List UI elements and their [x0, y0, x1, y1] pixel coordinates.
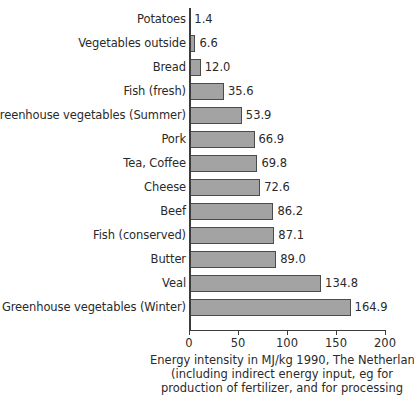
bar-wrapper: 1.4 — [189, 11, 250, 29]
bar-row: Pork66.9 — [0, 128, 414, 152]
bar-value-label: 69.8 — [257, 155, 287, 173]
bar-value-label: 66.9 — [255, 131, 285, 149]
bar-wrapper: 66.9 — [189, 131, 315, 149]
bar-row: Tea, Coffee69.8 — [0, 152, 414, 176]
bar-category-label: Vegetables outside — [78, 32, 186, 56]
bar-wrapper: 72.6 — [189, 179, 320, 197]
bar — [189, 275, 321, 292]
bar-wrapper: 87.1 — [189, 227, 334, 245]
x-tick-label: 50 — [231, 336, 246, 350]
bar-row: Bread12.0 — [0, 56, 414, 80]
bar-wrapper: 69.8 — [189, 155, 317, 173]
y-axis-line — [189, 8, 191, 330]
bar-row: Veal134.8 — [0, 272, 414, 296]
x-tick-label: 100 — [276, 336, 298, 350]
bar-wrapper: 12.0 — [189, 59, 261, 77]
bar-wrapper: 89.0 — [189, 251, 336, 269]
bar-category-label: Beef — [160, 200, 186, 224]
bar-row: Potatoes1.4 — [0, 8, 414, 32]
bar-category-label: Cheese — [144, 176, 186, 200]
bar-value-label: 134.8 — [321, 275, 358, 293]
bar-category-label: Greenhouse vegetables (Summer) — [0, 104, 186, 128]
bar-wrapper: 134.8 — [189, 275, 381, 293]
bar — [189, 179, 260, 196]
bar-category-label: Bread — [153, 56, 186, 80]
bar-wrapper: 6.6 — [189, 35, 255, 53]
x-tick — [287, 330, 288, 335]
bar-value-label: 12.0 — [201, 59, 231, 77]
plot-area: Potatoes1.4Vegetables outside6.6Bread12.… — [0, 0, 414, 340]
bar-category-label: Tea, Coffee — [123, 152, 186, 176]
bar-value-label: 35.6 — [224, 83, 254, 101]
x-tick — [385, 330, 386, 335]
bar — [189, 251, 276, 268]
bar — [189, 83, 224, 100]
bar-value-label: 6.6 — [195, 35, 217, 53]
bar-category-label: Butter — [151, 248, 186, 272]
x-tick-label: 200 — [374, 336, 396, 350]
bar-category-label: Greenhouse vegetables (Winter) — [2, 296, 186, 320]
caption-line-2: (including indirect energy input, eg for — [150, 367, 414, 381]
bar-value-label: 53.9 — [242, 107, 272, 125]
bar-row: Butter89.0 — [0, 248, 414, 272]
bar — [189, 203, 273, 220]
bar-rows: Potatoes1.4Vegetables outside6.6Bread12.… — [0, 8, 414, 320]
bar-value-label: 87.1 — [274, 227, 304, 245]
bar-value-label: 86.2 — [273, 203, 303, 221]
bar — [189, 131, 255, 148]
bar-category-label: Pork — [161, 128, 186, 152]
bar-row: Fish (conserved)87.1 — [0, 224, 414, 248]
bar — [189, 107, 242, 124]
bar — [189, 227, 274, 244]
bar-row: Vegetables outside6.6 — [0, 32, 414, 56]
bar-value-label: 89.0 — [276, 251, 306, 269]
x-tick — [238, 330, 239, 335]
bar-wrapper: 164.9 — [189, 299, 411, 317]
chart-caption: Energy intensity in MJ/kg 1990, The Neth… — [150, 353, 414, 395]
bar-category-label: Potatoes — [137, 8, 186, 32]
bar-wrapper: 35.6 — [189, 83, 284, 101]
caption-line-3: production of fertilizer, and for proces… — [150, 381, 414, 395]
bar — [189, 299, 351, 316]
bar-value-label: 1.4 — [190, 11, 212, 29]
bar-wrapper: 53.9 — [189, 107, 302, 125]
bar-category-label: Fish (conserved) — [93, 224, 186, 248]
x-tick — [336, 330, 337, 335]
bar-chart: Potatoes1.4Vegetables outside6.6Bread12.… — [0, 0, 414, 396]
bar-wrapper: 86.2 — [189, 203, 333, 221]
bar-value-label: 164.9 — [351, 299, 388, 317]
x-tick-label: 0 — [185, 336, 192, 350]
bar-row: Cheese72.6 — [0, 176, 414, 200]
bar-value-label: 72.6 — [260, 179, 290, 197]
bar-category-label: Fish (fresh) — [123, 80, 186, 104]
bar-category-label: Veal — [162, 272, 186, 296]
bar — [189, 155, 257, 172]
x-tick — [189, 330, 190, 335]
bar-row: Fish (fresh)35.6 — [0, 80, 414, 104]
bar-row: Greenhouse vegetables (Winter)164.9 — [0, 296, 414, 320]
bar-row: Greenhouse vegetables (Summer)53.9 — [0, 104, 414, 128]
caption-line-1: Energy intensity in MJ/kg 1990, The Neth… — [150, 353, 414, 367]
bar-row: Beef86.2 — [0, 200, 414, 224]
x-tick-label: 150 — [325, 336, 347, 350]
